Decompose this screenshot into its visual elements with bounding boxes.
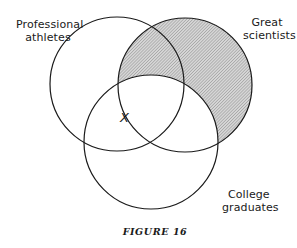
college-label-line-1: College — [222, 188, 276, 201]
figure-caption: FIGURE 16 — [120, 226, 190, 237]
x-marker: X — [120, 111, 129, 125]
scientists-label-line-1: Great — [243, 16, 291, 29]
scientists-label: Great scientists — [243, 16, 291, 42]
athletes-label: Professional athletes — [16, 18, 80, 44]
scientists-label-line-2: scientists — [243, 29, 291, 42]
athletes-label-line-1: Professional — [16, 18, 80, 31]
athletes-label-line-2: athletes — [16, 31, 80, 44]
college-label: College graduates — [222, 188, 276, 214]
college-label-line-2: graduates — [222, 201, 276, 214]
